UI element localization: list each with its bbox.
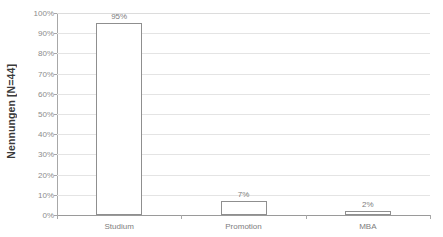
x-axis-category-label: Promotion bbox=[225, 222, 261, 231]
x-axis-category-label: MBA bbox=[359, 222, 376, 231]
bar-value-label: 2% bbox=[362, 200, 374, 209]
plot-area: 95%7%2% bbox=[57, 13, 430, 215]
x-axis-tick-mark bbox=[181, 215, 182, 219]
gridline bbox=[57, 215, 430, 216]
y-axis-tick-marks bbox=[21, 13, 57, 215]
x-axis-category-label: Studium bbox=[104, 222, 133, 231]
y-axis-title-text: Nennungen [N=44] bbox=[5, 64, 17, 159]
x-axis-tick-mark bbox=[430, 215, 431, 219]
x-axis-tick-mark bbox=[306, 215, 307, 219]
bar-studium[interactable] bbox=[96, 23, 142, 215]
x-axis-tick-mark bbox=[57, 215, 58, 219]
bar-value-label: 95% bbox=[111, 12, 127, 21]
bar-value-label: 7% bbox=[238, 190, 250, 199]
bar-promotion[interactable] bbox=[221, 201, 267, 215]
bar-mba[interactable] bbox=[345, 211, 391, 215]
bar-chart: Nennungen [N=44] 0%10%20%30%40%50%60%70%… bbox=[0, 0, 443, 237]
y-axis-title: Nennungen [N=44] bbox=[0, 0, 22, 222]
